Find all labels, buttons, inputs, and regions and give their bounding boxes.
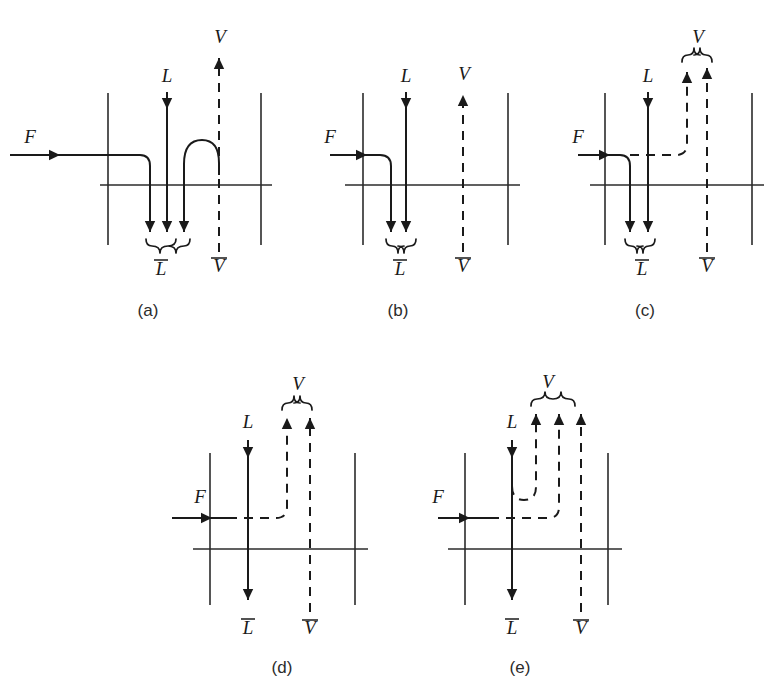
panel-c-label-V: V <box>692 26 706 47</box>
panel-c-label-L: L <box>642 65 654 86</box>
panel-d-liquid-in-arrowhead <box>243 447 253 458</box>
panel-e: F L V L V (e) <box>431 371 622 677</box>
panel-c-label-L-bar: L <box>636 258 648 279</box>
panel-b-label-F: F <box>323 126 336 147</box>
panel-c-feed-liquid-line <box>578 155 630 232</box>
panel-c-label-F: F <box>571 126 584 147</box>
panel-a-label-F: F <box>23 126 36 147</box>
panel-a-vapor-arc <box>184 140 219 232</box>
panel-b-label-V: V <box>458 63 472 84</box>
panel-b-label-L-bar: L <box>394 258 406 279</box>
panel-d-vapor-out-arrowhead <box>305 418 315 429</box>
panel-e-feed-vapor-line <box>490 414 559 518</box>
panel-a-arc-out-arrowhead <box>179 221 189 232</box>
panel-b-feed-out-arrowhead <box>386 221 396 232</box>
panel-c-caption: (c) <box>635 301 655 320</box>
panel-e-vapor-out-brace <box>531 392 575 406</box>
panel-a-label-L-bar: L <box>155 258 167 279</box>
panel-d-label-L: L <box>242 411 254 432</box>
panel-a-liquid-in-arrowhead <box>162 98 172 109</box>
panel-c-liquid-out-arrowhead <box>643 221 653 232</box>
panel-d-feed-vapor-line <box>228 418 287 518</box>
panel-e-label-F: F <box>431 486 444 507</box>
panel-b-liquid-in-arrowhead <box>401 98 411 109</box>
panel-d: F L V L V (d) <box>172 373 368 677</box>
flow-diagram-svg: F L V L V (a) F L V L V (b) <box>0 0 776 699</box>
panel-a-liquid-out-brace <box>146 239 190 253</box>
panel-b-feed-arrowhead <box>356 150 367 160</box>
panel-c-feed-liquid-arrowhead <box>625 221 635 232</box>
panel-b-vapor-out-arrowhead <box>458 95 468 106</box>
panel-a-feed-out-arrowhead <box>145 221 155 232</box>
panel-c-feed-vapor-arrowhead <box>682 72 692 83</box>
figure-container: F L V L V (a) F L V L V (b) <box>0 0 776 699</box>
panel-e-vapor-out-arrowhead <box>576 414 586 425</box>
panel-e-label-L-bar: L <box>506 617 518 638</box>
panel-b-label-L: L <box>400 65 412 86</box>
panel-a-liquid-out-arrowhead-mid <box>162 221 172 232</box>
panel-b: F L V L V (b) <box>323 63 520 320</box>
panel-a: F L V L V (a) <box>10 26 272 320</box>
panel-a-label-V: V <box>214 26 228 47</box>
panel-b-feed-line <box>330 155 391 232</box>
panel-b-liquid-out-arrowhead <box>401 221 411 232</box>
panel-e-label-L: L <box>506 411 518 432</box>
panel-d-liquid-out-arrowhead <box>243 589 253 600</box>
panel-d-caption: (d) <box>272 658 293 677</box>
panel-d-vapor-out-brace <box>282 396 312 410</box>
panel-e-liquid-out-arrowhead <box>507 589 517 600</box>
panel-d-label-V: V <box>292 373 306 394</box>
panel-e-flash-arrowhead <box>531 414 541 425</box>
panel-d-label-L-bar: L <box>242 617 254 638</box>
panel-e-feed-vapor-arrowhead <box>554 414 564 425</box>
panel-e-label-V: V <box>542 371 556 392</box>
panel-d-label-F: F <box>193 486 206 507</box>
panel-c-vapor-out-arrowhead <box>702 68 712 79</box>
panel-a-vapor-out-arrowhead <box>214 58 224 69</box>
panel-c-feed-vapor-line <box>630 72 687 155</box>
panel-c-liquid-out-brace <box>625 239 655 253</box>
panel-a-feed-arrowhead <box>49 150 60 160</box>
panel-d-feed-vapor-arrowhead <box>282 418 292 429</box>
panel-e-liquid-in-arrowhead <box>507 447 517 458</box>
panel-a-feed-line <box>10 155 150 232</box>
panel-c-vapor-out-brace <box>682 48 712 62</box>
panel-c: F L V L V (c) <box>571 26 764 320</box>
panel-c-liquid-in-arrowhead <box>643 98 653 109</box>
panel-a-label-L: L <box>161 65 173 86</box>
panel-e-caption: (e) <box>510 658 531 677</box>
panel-b-caption: (b) <box>388 301 409 320</box>
panel-a-caption: (a) <box>138 301 159 320</box>
panel-b-liquid-out-brace <box>386 239 416 253</box>
